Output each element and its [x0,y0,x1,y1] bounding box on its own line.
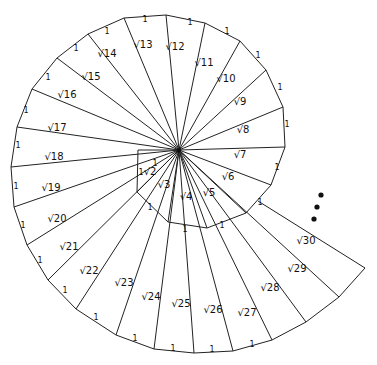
root-labels: √2√3√4√5√6√7√8√9√10√11√12√13√14√15√16√17… [41,39,315,318]
root-label: √28 [260,282,279,293]
root-label: √23 [114,277,133,288]
root-label: √17 [47,122,66,133]
root-label: √11 [194,57,213,68]
unit-label: 1 [142,15,147,24]
unit-label: 1 [45,73,50,82]
hypotenuse-line [48,150,179,280]
hypotenuse-line [17,127,179,150]
unit-label: 1 [219,221,224,230]
hypotenuse-line [179,150,194,353]
root-label: √30 [296,235,315,246]
continuation-dots [177,148,324,222]
ellipsis-dot [318,192,323,197]
unit-label: 1 [277,83,282,92]
unit-label: 1 [132,334,137,343]
spiral-of-theodorus: √2√3√4√5√6√7√8√9√10√11√12√13√14√15√16√17… [0,0,377,365]
unit-label: 1 [152,159,157,168]
unit-label: 1 [23,106,28,115]
unit-label: 1 [37,256,42,265]
unit-label: 1 [224,27,229,36]
root-label: √13 [133,39,152,50]
unit-label: 1 [182,225,187,234]
root-label: √15 [81,71,100,82]
unit-label: 1 [187,18,192,27]
unit-label: 1 [13,182,18,191]
root-label: √7 [234,149,247,160]
root-label: √5 [203,187,216,198]
unit-label: 1 [104,27,109,36]
root-label: √9 [234,96,247,107]
root-label: √16 [57,89,76,100]
root-label: √3 [158,179,171,190]
root-label: √12 [165,41,184,52]
hypotenuse-line [179,150,339,297]
unit-label: 1 [138,168,143,177]
unit-label: 1 [73,44,78,53]
root-label: √22 [79,265,98,276]
hypotenuse-line [166,15,179,150]
root-label: √14 [97,48,116,59]
unit-label: 1 [249,340,254,349]
root-label: √19 [41,182,60,193]
root-label: √24 [141,291,160,302]
root-label: √27 [237,307,256,318]
root-label: √6 [222,171,235,182]
ellipsis-dot [311,216,316,221]
unit-label: 1 [209,345,214,354]
root-label: √25 [171,298,190,309]
unit-label: 1 [93,313,98,322]
root-label: √10 [216,73,235,84]
center-point [177,148,181,152]
unit-label: 1 [284,120,289,129]
root-label: √21 [59,241,78,252]
hypotenuse-line [116,150,179,335]
root-label: √20 [47,213,66,224]
unit-label: 1 [274,163,279,172]
unit-label: 1 [257,198,262,207]
root-label: √8 [237,124,250,135]
unit-label: 1 [15,141,20,150]
hypotenuse-line [179,107,283,150]
root-label: √4 [180,191,193,202]
ellipsis-dot [314,204,319,209]
unit-label: 1 [255,51,260,60]
unit-label: 1 [62,286,67,295]
hypotenuse-line [179,147,285,150]
unit-label: 1 [170,344,175,353]
root-label: √26 [203,304,222,315]
unit-label: 1 [147,203,152,212]
unit-label: 1 [20,221,25,230]
root-label: √18 [44,151,63,162]
hypotenuse-line [179,150,306,322]
root-label: √29 [287,263,306,274]
